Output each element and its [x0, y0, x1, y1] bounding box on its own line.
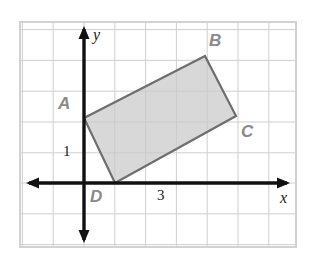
coordinate-grid-figure: A B C D y x 1 3 — [0, 0, 312, 264]
vertex-label-c: C — [241, 123, 253, 140]
vertex-label-b: B — [209, 32, 221, 49]
y-axis-label: y — [93, 27, 100, 43]
graph-canvas — [0, 0, 312, 264]
y-tick-label-1: 1 — [63, 144, 71, 159]
vertex-label-a: A — [58, 95, 70, 112]
x-axis-label: x — [280, 190, 287, 206]
x-tick-label-3: 3 — [157, 188, 165, 203]
vertex-label-d: D — [90, 188, 102, 205]
